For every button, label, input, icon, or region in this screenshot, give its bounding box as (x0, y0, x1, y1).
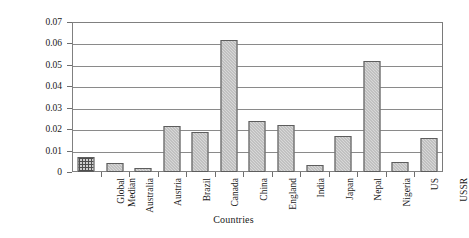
x-tick-label: Australia (145, 178, 156, 238)
x-tick-label: Brazil (202, 178, 213, 238)
bar-nigeria (363, 61, 380, 172)
x-tick-label: England (288, 178, 299, 238)
y-tick-label: 0.04 (45, 81, 62, 91)
bar-slot (215, 22, 244, 172)
bar-nepal (335, 136, 352, 172)
y-axis-ticks: 0.070.060.050.040.030.020.010 (0, 22, 72, 172)
x-tick-label: USSR (459, 178, 469, 238)
bar-china (220, 40, 237, 172)
x-tick-label: Nigeria (402, 178, 413, 238)
bar-slot (386, 22, 415, 172)
x-axis-title: Countries (0, 214, 467, 225)
bar-slot (129, 22, 158, 172)
bar-brazil (163, 126, 180, 172)
y-tick-label: 0.01 (45, 146, 62, 156)
x-tick-label: India (316, 178, 327, 238)
y-tick-label: 0.07 (45, 17, 62, 27)
x-tick-label: Global Median (116, 178, 137, 238)
bar-global-median (78, 157, 95, 172)
bar-england (249, 121, 266, 172)
bar-slot (329, 22, 358, 172)
bar-slot (101, 22, 130, 172)
bar-slot (186, 22, 215, 172)
bar-slot (357, 22, 386, 172)
y-tick-label: 0.06 (45, 38, 62, 48)
y-tick-label: 0.02 (45, 124, 62, 134)
y-tick-label: 0 (57, 167, 62, 177)
bar-us (392, 162, 409, 172)
bar-canada (192, 132, 209, 172)
bar-japan (306, 165, 323, 172)
x-axis-category-labels: Global MedianAustraliaAustriaBrazilCanad… (72, 176, 443, 212)
bar-australia (106, 163, 123, 172)
x-tick-label: Japan (345, 178, 356, 238)
bar-ussr (420, 138, 437, 173)
x-tick-label: US (430, 178, 441, 238)
bar-slot (72, 22, 101, 172)
bar-slot (158, 22, 187, 172)
x-tick-label: Austria (173, 178, 184, 238)
bar-slot (300, 22, 329, 172)
bar-slot (243, 22, 272, 172)
bar-slot (272, 22, 301, 172)
x-tick-label: Nepal (373, 178, 384, 238)
x-tick-label: Canada (230, 178, 241, 238)
bar-india (278, 125, 295, 172)
x-tick-label: China (259, 178, 270, 238)
bars-layer (72, 22, 443, 172)
y-tick-label: 0.05 (45, 60, 62, 70)
bar-slot (414, 22, 443, 172)
y-tick-label: 0.03 (45, 103, 62, 113)
